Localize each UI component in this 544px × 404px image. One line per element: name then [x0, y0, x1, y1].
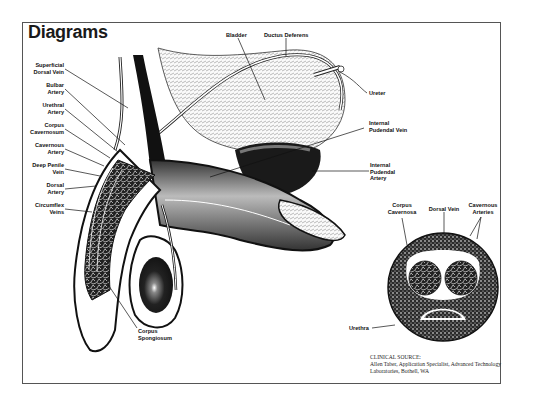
label-corpus-cavernosum: CorpusCavernosum: [22, 122, 64, 135]
label-urethra: Urethra: [349, 325, 369, 332]
label-bladder: Bladder: [226, 32, 247, 39]
label-dorsal-artery: DorsalArtery: [22, 182, 64, 195]
label-corpus-spongiosum: CorpusSpongiosum: [138, 328, 172, 341]
label-superficial-dorsal-vein: SuperficialDorsal Vein: [22, 62, 64, 75]
anatomy-illustration: [0, 0, 544, 404]
label-corpus-cavernosa: CorpusCavernosa: [387, 202, 417, 215]
label-dorsal-vein: Dorsal Vein: [424, 206, 464, 213]
label-bulbar-artery: BulbarArtery: [22, 82, 64, 95]
label-cavernous-arteries: CavernousArteries: [467, 202, 499, 215]
label-deep-penile-vein: Deep PenileVein: [22, 162, 64, 175]
label-ureter: Ureter: [369, 90, 385, 97]
label-internal-pudendal-artery: InternalPudendalArtery: [370, 162, 395, 182]
label-ductus-deferens: Ductus Deferens: [264, 32, 308, 39]
label-cavernous-artery: CavernousArtery: [22, 142, 64, 155]
label-circumflex-veins: CircumflexVeins: [22, 202, 64, 215]
cross-section-illustration: [388, 233, 498, 341]
label-urethral-artery: UrethralArtery: [22, 102, 64, 115]
clinical-source-credit: CLINICAL SOURCE: Allen Taber, Applicatio…: [370, 354, 501, 376]
label-internal-pudendal-vein: InternalPudendal Vein: [369, 120, 407, 133]
